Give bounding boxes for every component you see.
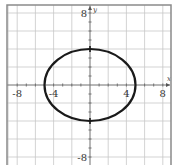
x-tick-label: 4 bbox=[123, 88, 129, 99]
x-tick-label: -8 bbox=[12, 88, 22, 99]
axes bbox=[7, 5, 170, 165]
x-tick-label: -4 bbox=[49, 88, 59, 99]
y-axis-arrow-icon bbox=[88, 6, 92, 10]
y-tick-label: 8 bbox=[81, 8, 87, 19]
ellipse-plot: xy-8-4488-8 bbox=[0, 0, 175, 165]
x-axis-arrow-icon bbox=[166, 83, 170, 87]
x-tick-label: 8 bbox=[160, 88, 166, 99]
y-tick-label: -8 bbox=[77, 152, 87, 163]
